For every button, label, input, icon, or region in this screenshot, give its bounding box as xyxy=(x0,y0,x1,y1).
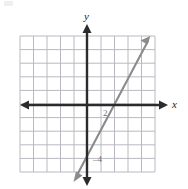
graph-figure: x y 2 –4 xyxy=(0,0,188,189)
plotted-line xyxy=(74,36,151,182)
x-intercept-label: 2 xyxy=(103,109,108,118)
x-axis xyxy=(20,101,168,110)
y-intercept-label: –4 xyxy=(93,155,102,164)
x-axis-label: x xyxy=(172,99,177,110)
y-axis-label: y xyxy=(84,11,89,22)
